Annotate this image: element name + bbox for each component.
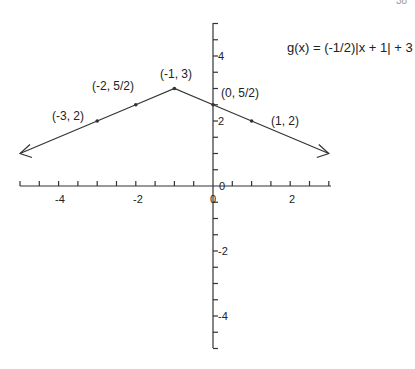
point-label: (-3, 2) (52, 110, 84, 122)
x-tick-label: 0 (210, 194, 216, 205)
x-tick-label: -2 (133, 194, 143, 205)
x-axis (20, 181, 331, 186)
y-tick-label: 2 (218, 116, 224, 127)
graph-canvas (0, 0, 415, 369)
y-tick-label: 0 (219, 181, 225, 192)
function-equation: g(x) = (-1/2)|x + 1| + 3 (287, 41, 413, 54)
point-label: (0, 5/2) (221, 87, 259, 99)
x-tick-label: -4 (55, 194, 65, 205)
y-tick-label: -2 (218, 246, 228, 257)
point-label: (1, 2) (271, 115, 299, 127)
point-label: (-2, 5/2) (92, 80, 134, 92)
x-tick-label: 2 (289, 194, 295, 205)
y-tick-label: -4 (218, 311, 228, 322)
point-label: (-1, 3) (160, 68, 192, 80)
y-tick-label: 4 (218, 51, 224, 62)
